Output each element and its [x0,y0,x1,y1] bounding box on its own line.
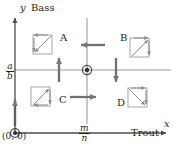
region-label-b: B [120,33,127,43]
region-a-spiral-glyph [33,35,52,54]
x-tick-denominator: n [79,133,90,143]
x-tick-numerator: m [79,124,90,133]
region-label-d: D [117,98,125,108]
nullclines [14,18,171,124]
y-nullcline-tick-label: a b [6,62,14,82]
y-tick-denominator: b [6,71,14,81]
x-axis-name: Trout [131,128,159,138]
y-axis-symbol: y [20,3,26,13]
region-d-spiral-glyph [128,88,147,107]
origin-label: (0, 0) [2,132,26,141]
x-axis-symbol: x [164,119,170,129]
region-label-a: A [60,33,67,43]
region-c-spiral-glyph [31,87,50,106]
y-axis-name: Bass [31,3,55,13]
region-b-spiral-glyph [130,38,149,57]
phase-plane-figure: y Bass x Trout (0, 0) A B C D a b m n [0,0,175,148]
x-nullcline-tick-label: m n [79,124,90,144]
region-label-c: C [59,95,67,105]
y-tick-numerator: a [6,62,14,71]
